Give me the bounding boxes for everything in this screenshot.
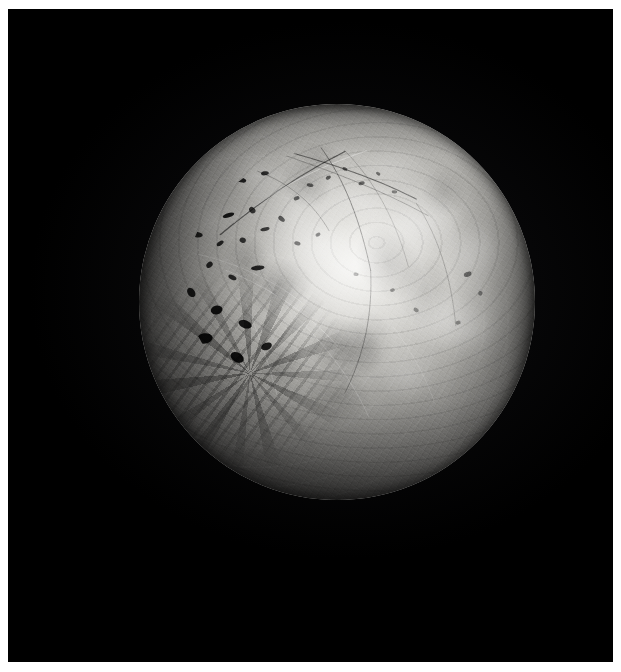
planetary-disk [139,104,535,500]
photo-frame [8,9,613,662]
limb-feather [139,104,535,500]
image-caption: Grayscale spacecraft photograph of an il… [0,0,1,1]
screenshot-root: Grayscale spacecraft photograph of an il… [0,0,621,672]
planet-container [8,9,613,662]
